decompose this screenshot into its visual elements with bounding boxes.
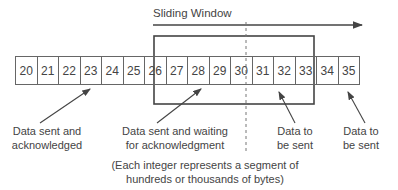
waiting-label: Data sent and waiting for acknowledgment xyxy=(115,124,235,152)
segment-cell: 30 xyxy=(231,57,253,84)
tosend-outer-pointer-arrow xyxy=(348,92,365,123)
waiting-pointer-arrow xyxy=(157,89,201,123)
segment-cell: 20 xyxy=(16,57,38,84)
segment-cell: 31 xyxy=(253,57,275,84)
tosend-inner-pointer-arrow xyxy=(279,92,295,123)
segment-cell: 21 xyxy=(38,57,60,84)
segment-cell: 24 xyxy=(102,57,124,84)
segment-cell: 34 xyxy=(317,57,339,84)
tosend-inner-label: Data to be sent xyxy=(270,124,320,152)
segment-cell: 35 xyxy=(339,57,361,84)
segment-cell: 26 xyxy=(145,57,167,84)
acked-label: Data sent and acknowledged xyxy=(10,124,84,152)
segment-row: 20 21 22 23 24 25 26 27 28 29 30 31 32 3… xyxy=(15,56,360,85)
segment-cell: 29 xyxy=(210,57,232,84)
segment-cell: 28 xyxy=(188,57,210,84)
segment-cell: 25 xyxy=(124,57,146,84)
acked-pointer-arrow xyxy=(40,89,90,123)
segment-note: (Each integer represents a segment of hu… xyxy=(105,158,305,186)
segment-cell: 23 xyxy=(81,57,103,84)
tosend-outer-label: Data to be sent xyxy=(336,124,386,152)
segment-cell: 32 xyxy=(274,57,296,84)
segment-cell: 22 xyxy=(59,57,81,84)
segment-cell: 27 xyxy=(167,57,189,84)
diagram-title: Sliding Window xyxy=(153,7,232,19)
segment-cell: 33 xyxy=(296,57,318,84)
